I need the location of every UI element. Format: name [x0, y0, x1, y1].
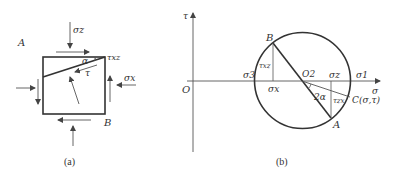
two-alpha-label: 2α [313, 92, 326, 102]
corner-a-label: A [17, 37, 25, 48]
sigma1-label: σ1 [356, 70, 368, 80]
tau-zx-label-b: τzx [333, 97, 345, 105]
figure-a-caption: (a) [64, 156, 75, 168]
stress-diagram-canvas: A B σz σx τxz α τ (a) τ σ O O2 σ3 σ1 σz … [0, 0, 394, 175]
figure-a-element-stress: A B σz σx τxz α τ (a) [16, 22, 136, 168]
diameter-ba [273, 43, 331, 118]
sigma-z-label-b: σz [329, 70, 340, 80]
figure-b-caption: (b) [276, 156, 288, 168]
normal-stress-arrow [70, 77, 79, 104]
tau-xz-label: τxz [107, 53, 121, 62]
point-b-label: B [265, 32, 273, 43]
sigma-x-label: σx [124, 73, 135, 83]
point-c-label: C(σ,τ) [352, 95, 380, 105]
figure-b-mohr-circle: τ σ O O2 σ3 σ1 σz σx B A C(σ,τ) τxz τzx … [182, 11, 380, 168]
sigma-z-label: σz [73, 25, 84, 35]
point-a-label: A [332, 119, 340, 130]
origin-label: O [182, 84, 190, 95]
inclined-plane-line [43, 57, 105, 77]
tau-axis-label: τ [183, 11, 189, 21]
center-o2-label: O2 [302, 69, 315, 79]
alpha-label: α [82, 56, 88, 66]
sigma-x-label-b: σx [268, 84, 279, 94]
corner-b-label: B [103, 117, 111, 128]
tau-xz-label-b: τxz [259, 62, 271, 70]
two-alpha-arc [308, 84, 311, 89]
tau-label: τ [85, 68, 91, 78]
sigma3-label: σ3 [243, 70, 255, 80]
